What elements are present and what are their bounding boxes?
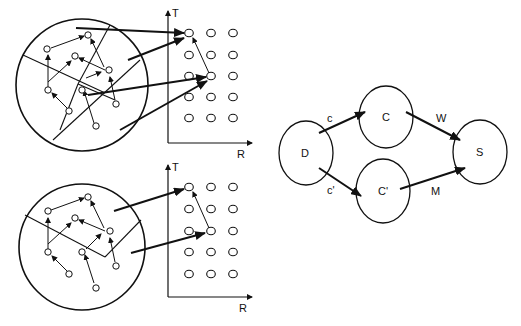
edge-c-s <box>406 112 460 140</box>
bottom-panel <box>19 165 252 310</box>
bottom-t-axis-label: T <box>172 161 179 173</box>
edge-c-s-label: W <box>436 112 447 124</box>
edge-c-prime-s-label: M <box>431 185 440 197</box>
edge-d-c-prime <box>319 168 361 196</box>
cell-grid <box>185 29 238 122</box>
edge-d-c-prime-label: c' <box>327 184 335 196</box>
node-c-prime-label: C' <box>378 185 388 197</box>
state-space-circle <box>19 184 145 310</box>
top-t-axis-label: T <box>172 7 179 19</box>
edge-d-c <box>319 112 365 133</box>
node-d-label: D <box>301 147 309 159</box>
cell-graph <box>279 86 507 223</box>
top-r-axis-label: R <box>237 148 245 160</box>
edge-d-c-label: c <box>327 112 333 124</box>
state-space-circle <box>16 19 148 151</box>
top-panel <box>16 11 252 151</box>
node-s-label: S <box>476 146 483 158</box>
figure-canvas: T R <box>0 0 521 326</box>
faint-caption-area <box>70 312 450 322</box>
cell-grid <box>185 183 238 278</box>
node-c-label: C <box>382 111 390 123</box>
